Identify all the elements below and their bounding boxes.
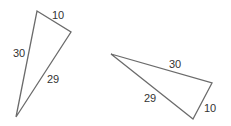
left-triangle-shape (16, 11, 71, 117)
right-triangle-shape (111, 54, 212, 119)
triangles-diagram: 10 30 29 30 29 10 (0, 0, 231, 126)
right-triangle-label-30: 30 (169, 58, 181, 70)
left-triangle-label-29: 29 (47, 73, 59, 85)
left-triangle-label-30: 30 (13, 47, 25, 59)
right-triangle-label-29: 29 (144, 92, 156, 104)
left-triangle: 10 30 29 (13, 9, 71, 117)
left-triangle-label-10: 10 (52, 9, 64, 21)
right-triangle: 30 29 10 (111, 54, 216, 119)
right-triangle-label-10: 10 (204, 102, 216, 114)
